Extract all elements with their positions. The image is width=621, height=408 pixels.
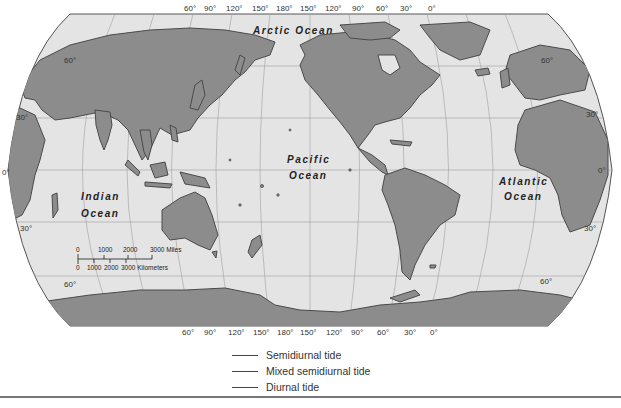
svg-text:90°: 90°	[351, 328, 363, 337]
legend-item-semidiurnal: Semidiurnal tide	[232, 347, 370, 363]
tide-legend: Semidiurnal tide Mixed semidiurnal tide …	[232, 347, 370, 395]
iceland	[475, 68, 490, 76]
pacific-ocean-label-2: Ocean	[289, 170, 328, 181]
legend-label: Diurnal tide	[266, 381, 319, 393]
svg-text:30°: 30°	[586, 110, 598, 119]
bottom-longitude-labels: 60° 90° 120° 150° 180° 150° 120° 90° 60°…	[182, 328, 438, 337]
svg-text:30°: 30°	[584, 224, 596, 233]
svg-text:150°: 150°	[253, 328, 270, 337]
svg-text:0: 0	[76, 264, 80, 271]
indian-ocean-label-1: Indian	[81, 191, 120, 202]
svg-text:0°: 0°	[428, 4, 436, 13]
falklands	[430, 265, 436, 268]
svg-text:0°: 0°	[2, 168, 10, 177]
svg-text:90°: 90°	[204, 328, 216, 337]
svg-text:60°: 60°	[184, 4, 196, 13]
svg-text:30°: 30°	[400, 4, 412, 13]
svg-text:60°: 60°	[377, 328, 389, 337]
svg-text:30°: 30°	[20, 224, 32, 233]
svg-text:150°: 150°	[300, 328, 317, 337]
legend-item-diurnal: Diurnal tide	[232, 379, 370, 395]
svg-text:30°: 30°	[16, 113, 28, 122]
svg-text:2000: 2000	[104, 264, 119, 271]
bottom-divider	[0, 396, 621, 398]
svg-text:0°: 0°	[598, 166, 606, 175]
svg-text:0: 0	[76, 246, 80, 253]
svg-text:1000: 1000	[98, 246, 113, 253]
svg-text:90°: 90°	[352, 4, 364, 13]
pacific-ocean-label-1: Pacific	[287, 154, 330, 165]
svg-text:60°: 60°	[182, 328, 194, 337]
atlantic-ocean-label-1: Atlantic	[498, 176, 548, 187]
top-longitude-labels: 60° 90° 120° 150° 180° 150° 120° 90° 60°…	[184, 4, 436, 13]
arctic-ocean-label: Arctic Ocean	[252, 25, 334, 36]
svg-text:150°: 150°	[300, 4, 317, 13]
svg-text:30°: 30°	[404, 328, 416, 337]
svg-text:0°: 0°	[430, 328, 438, 337]
svg-text:120°: 120°	[325, 4, 342, 13]
svg-text:3000 Kilometers: 3000 Kilometers	[121, 264, 169, 271]
semidiurnal-line-swatch	[232, 355, 258, 356]
atlantic-ocean-label-2: Ocean	[504, 191, 543, 202]
svg-text:60°: 60°	[64, 280, 76, 289]
svg-text:90°: 90°	[204, 4, 216, 13]
legend-label: Mixed semidiurnal tide	[266, 365, 370, 377]
legend-item-mixed-semidiurnal: Mixed semidiurnal tide	[232, 363, 370, 379]
world-map: 60° 90° 120° 150° 180° 150° 120° 90° 60°…	[0, 0, 621, 340]
svg-text:120°: 120°	[326, 328, 343, 337]
svg-text:60°: 60°	[64, 56, 76, 65]
indian-ocean-label-2: Ocean	[81, 208, 120, 219]
svg-text:60°: 60°	[376, 4, 388, 13]
svg-text:3000 Miles: 3000 Miles	[150, 246, 182, 253]
mixed-semidiurnal-line-swatch	[232, 371, 258, 372]
svg-text:60°: 60°	[541, 56, 553, 65]
svg-text:1000: 1000	[87, 264, 102, 271]
svg-text:180°: 180°	[277, 328, 294, 337]
arctic-archipelago	[340, 22, 400, 40]
svg-text:2000: 2000	[123, 246, 138, 253]
svg-text:60°: 60°	[540, 277, 552, 286]
uk	[500, 68, 510, 88]
svg-text:120°: 120°	[226, 4, 243, 13]
svg-text:120°: 120°	[228, 328, 245, 337]
svg-text:180°: 180°	[276, 4, 293, 13]
svg-text:150°: 150°	[252, 4, 269, 13]
diurnal-line-swatch	[232, 387, 258, 388]
legend-label: Semidiurnal tide	[266, 349, 341, 361]
